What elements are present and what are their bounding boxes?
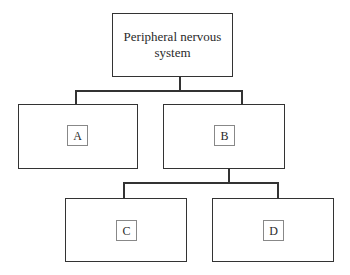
connector-level1-horizontal [75,90,242,92]
connector-root-down [179,76,181,91]
node-B: B [163,104,285,169]
node-A: A [18,104,138,169]
node-root-label: Peripheral nervous system [113,29,232,61]
connector-to-C [123,182,125,198]
node-C: C [65,198,187,262]
node-root: Peripheral nervous system [112,13,233,77]
node-B-label: B [214,125,235,146]
root-label-line1: Peripheral nervous [113,29,232,45]
connector-level2-horizontal [123,182,278,184]
node-D: D [212,198,334,262]
root-label-line2: system [113,45,232,61]
connector-to-A [75,90,77,104]
node-D-label: D [263,220,284,241]
node-C-label: C [116,220,137,241]
connector-to-B [241,90,243,104]
connector-to-D [277,182,279,198]
connector-B-down [228,168,230,183]
node-A-label: A [67,125,88,146]
